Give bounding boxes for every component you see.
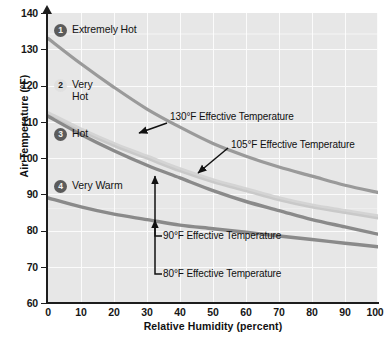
annotation-90f: 90°F Effective Temperature	[163, 230, 281, 241]
curve-105f-core	[48, 112, 378, 215]
zone-badge-1: 1	[54, 24, 67, 37]
zone-label-2: Very Hot	[72, 79, 93, 102]
x-tick-10: 10	[66, 306, 96, 318]
heat-index-chart: 1 Extremely Hot 2 Very Hot 3 Hot 4 Very …	[0, 0, 384, 340]
annotation-130f: 130°F Effective Temperature	[170, 111, 294, 122]
y-tick-80: 80	[4, 224, 38, 236]
legend-item-extremely-hot: 1 Extremely Hot	[54, 24, 137, 37]
y-tick-140: 140	[4, 7, 38, 19]
y-axis-line	[46, 13, 48, 304]
x-tick-0: 0	[33, 306, 63, 318]
legend-item-very-warm: 4 Very Warm	[54, 180, 123, 193]
y-axis-label: Air Temperature (°F)	[18, 46, 30, 206]
curve-layer	[48, 13, 378, 303]
zone-label-1: Extremely Hot	[72, 24, 137, 36]
annotation-105f: 105°F Effective Temperature	[231, 139, 355, 150]
plot-area: 1 Extremely Hot 2 Very Hot 3 Hot 4 Very …	[48, 13, 378, 303]
legend-item-very-hot: 2 Very Hot	[54, 79, 93, 102]
x-tick-50: 50	[198, 306, 228, 318]
x-axis-line	[46, 302, 379, 304]
x-tick-90: 90	[330, 306, 360, 318]
zone-label-4: Very Warm	[72, 180, 123, 192]
zone-badge-2: 2	[54, 79, 67, 92]
zone-badge-3: 3	[54, 128, 67, 141]
x-tick-60: 60	[231, 306, 261, 318]
curve-105f	[48, 115, 378, 218]
y-tick-70: 70	[4, 261, 38, 273]
zone-label-3: Hot	[72, 128, 88, 140]
x-axis-label: Relative Humidity (percent)	[48, 320, 378, 332]
x-tick-20: 20	[99, 306, 129, 318]
annotation-80f: 80°F Effective Temperature	[163, 268, 281, 279]
x-tick-30: 30	[132, 306, 162, 318]
x-tick-40: 40	[165, 306, 195, 318]
x-tick-80: 80	[297, 306, 327, 318]
curve-90f	[48, 116, 378, 234]
legend-item-hot: 3 Hot	[54, 128, 88, 141]
x-tick-70: 70	[264, 306, 294, 318]
zone-badge-4: 4	[54, 180, 67, 193]
x-tick-100: 100	[360, 306, 384, 318]
